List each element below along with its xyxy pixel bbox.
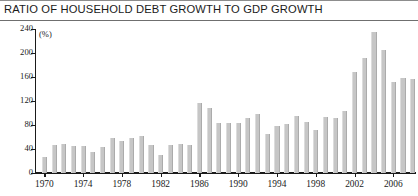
y-tick-mark [31, 125, 35, 126]
bar [304, 122, 309, 173]
x-tick-label: 2002 [345, 179, 364, 189]
y-tick-mark [31, 173, 35, 174]
bar [139, 136, 144, 173]
bar [255, 114, 260, 173]
bar [342, 111, 347, 173]
bar [216, 123, 221, 173]
bar [284, 124, 289, 173]
bar [352, 72, 357, 173]
bar [119, 141, 124, 173]
bar [274, 126, 279, 173]
x-tick-mark [316, 173, 317, 177]
bar [265, 134, 270, 173]
bar-series [36, 29, 416, 173]
bar [245, 118, 250, 173]
x-tick-label: 1970 [35, 179, 54, 189]
x-tick-label: 1982 [151, 179, 170, 189]
bar [90, 152, 95, 173]
page-title: RATIO OF HOUSEHOLD DEBT GROWTH TO GDP GR… [4, 3, 323, 15]
x-tick-mark [355, 173, 356, 177]
bar [400, 78, 405, 173]
bar [148, 145, 153, 173]
y-tick-label: 40 [24, 143, 33, 153]
bar [187, 145, 192, 173]
x-tick-mark [83, 173, 84, 177]
bar [371, 32, 376, 173]
bar [323, 117, 328, 173]
bar [71, 146, 76, 173]
y-tick-label: 240 [20, 23, 33, 33]
x-tick-label: 2006 [384, 179, 403, 189]
x-tick-label: 1994 [268, 179, 287, 189]
y-tick-mark [31, 29, 35, 30]
chart-figure: RATIO OF HOUSEHOLD DEBT GROWTH TO GDP GR… [0, 0, 418, 196]
bar [129, 138, 134, 173]
x-tick-mark [393, 173, 394, 177]
bar [178, 144, 183, 173]
bar [236, 123, 241, 173]
y-tick-label: 0 [29, 167, 33, 177]
title-bar: RATIO OF HOUSEHOLD DEBT GROWTH TO GDP GR… [0, 1, 418, 21]
bar [81, 146, 86, 173]
x-tick-mark [277, 173, 278, 177]
bar [381, 50, 386, 173]
y-tick-mark [31, 77, 35, 78]
x-tick-mark [238, 173, 239, 177]
bar [110, 138, 115, 173]
bar [168, 145, 173, 173]
x-tick-label: 1978 [112, 179, 131, 189]
y-tick-label: 200 [20, 47, 33, 57]
bar [391, 82, 396, 173]
bar [410, 79, 415, 173]
bar [333, 118, 338, 173]
x-tick-mark [122, 173, 123, 177]
bar [61, 144, 66, 173]
bar [197, 103, 202, 173]
y-tick-label: 160 [20, 71, 33, 81]
bar [52, 145, 57, 173]
x-tick-label: 1974 [74, 179, 93, 189]
y-tick-mark [31, 101, 35, 102]
y-tick-label: 120 [20, 95, 33, 105]
bar [100, 147, 105, 173]
bar [313, 130, 318, 173]
bar [226, 123, 231, 173]
bar [158, 155, 163, 173]
plot-area: (%) 04080120160200240 197019741978198219… [0, 21, 418, 196]
y-tick-label: 80 [24, 119, 33, 129]
x-tick-mark [161, 173, 162, 177]
x-tick-mark [44, 173, 45, 177]
bar [207, 108, 212, 173]
y-tick-mark [31, 149, 35, 150]
bar [294, 116, 299, 173]
x-tick-mark [199, 173, 200, 177]
y-tick-mark [31, 53, 35, 54]
x-tick-label: 1990 [229, 179, 248, 189]
bar [362, 58, 367, 173]
x-tick-label: 1998 [306, 179, 325, 189]
x-tick-label: 1986 [190, 179, 209, 189]
bar [42, 157, 47, 173]
